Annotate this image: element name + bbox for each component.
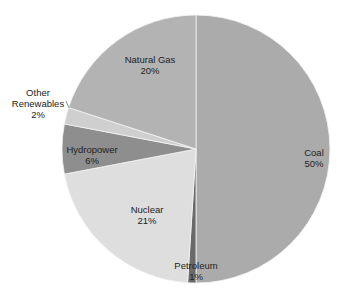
label-other-renewables: Other Renewables 2%: [12, 87, 64, 120]
label-coal-name: Coal: [304, 147, 324, 158]
label-hydropower-name: Hydropower: [66, 144, 117, 155]
label-petroleum-name: Petroleum: [174, 260, 217, 271]
label-petroleum-pct: 1%: [174, 271, 217, 282]
label-nuclear-name: Nuclear: [131, 204, 164, 215]
label-nuclear-pct: 21%: [131, 215, 164, 226]
label-coal-pct: 50%: [304, 158, 324, 169]
label-hydropower-pct: 6%: [66, 155, 117, 166]
label-other-renewables-name-1: Other: [12, 87, 64, 98]
label-petroleum: Petroleum 1%: [174, 260, 217, 282]
pie-chart: [0, 0, 344, 297]
label-hydropower: Hydropower 6%: [66, 144, 117, 166]
label-other-renewables-name-2: Renewables: [12, 98, 64, 109]
label-natural-gas-pct: 20%: [125, 65, 176, 76]
label-natural-gas-name: Natural Gas: [125, 54, 176, 65]
label-coal: Coal 50%: [304, 147, 324, 169]
label-other-renewables-pct: 2%: [12, 109, 64, 120]
label-nuclear: Nuclear 21%: [131, 204, 164, 226]
label-natural-gas: Natural Gas 20%: [125, 54, 176, 76]
leader-line-other-renewables: [66, 101, 69, 108]
